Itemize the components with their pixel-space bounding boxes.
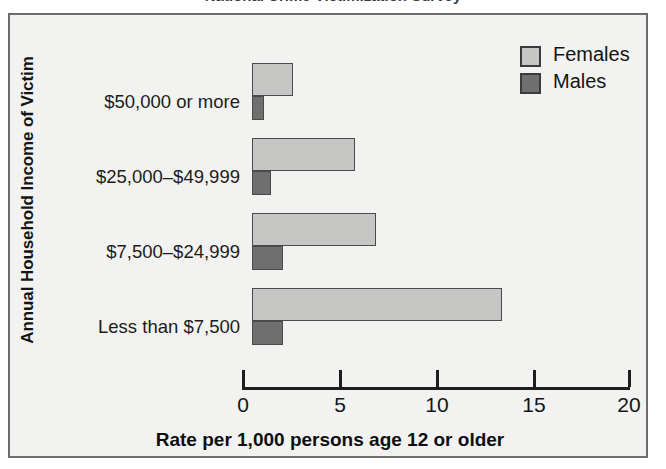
legend-label-females: Females: [553, 43, 630, 66]
x-tick-10: [436, 370, 439, 387]
y-axis-tick-labels: $50,000 or more $25,000–$49,999 $7,500–$…: [18, 15, 240, 460]
partial-chart-title: National Crime Victimization Survey: [0, 0, 666, 9]
x-tick-label-0: 0: [221, 393, 265, 417]
x-tick-label-20: 20: [607, 393, 651, 417]
bar-males-50-000-or-more: [252, 96, 264, 120]
chart-figure: National Crime Victimization Survey Annu…: [0, 0, 666, 469]
bar-females-7-500-24-999: [252, 213, 376, 246]
bar-females-25-000-49-999: [252, 138, 355, 171]
bar-males-25-000-49-999: [252, 171, 271, 195]
x-axis-line: [242, 387, 630, 390]
plot-frame: Annual Household Income of Victim $50,00…: [8, 13, 648, 458]
legend-swatch-males: [520, 73, 541, 94]
x-tick-label-5: 5: [318, 393, 362, 417]
bar-females-50-000-or-more: [252, 63, 293, 96]
y-tick-label-25000-49999: $25,000–$49,999: [30, 166, 240, 188]
x-axis-title: Rate per 1,000 persons age 12 or older: [10, 429, 650, 451]
x-tick-0: [242, 370, 245, 387]
x-tick-15: [533, 370, 536, 387]
y-tick-label-less-than-7500: Less than $7,500: [30, 316, 240, 338]
legend-swatch-females: [520, 46, 541, 67]
x-tick-label-15: 15: [512, 393, 556, 417]
y-tick-label-50000-or-more: $50,000 or more: [30, 91, 240, 113]
x-tick-5: [339, 370, 342, 387]
bar-males-7-500-24-999: [252, 246, 283, 270]
legend-label-males: Males: [553, 70, 606, 93]
x-tick-label-10: 10: [415, 393, 459, 417]
x-tick-20: [628, 370, 631, 387]
bar-females-less-than-7-500: [252, 288, 502, 321]
bar-males-less-than-7-500: [252, 321, 283, 345]
y-tick-label-7500-24999: $7,500–$24,999: [30, 241, 240, 263]
